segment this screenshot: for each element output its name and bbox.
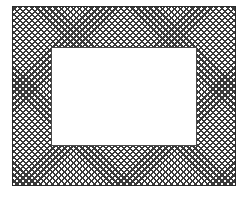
crosshatch-frame: [12, 6, 236, 186]
frame-opening: [52, 48, 196, 145]
